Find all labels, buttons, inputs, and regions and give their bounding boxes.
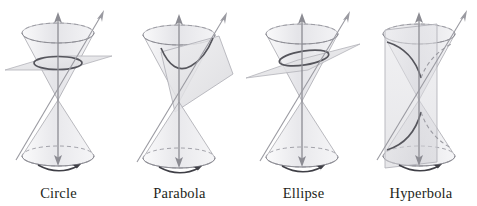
conic-sections-figure: Circle (0, 0, 477, 206)
circle-diagram (0, 0, 117, 180)
panel-label-parabola: Parabola (117, 184, 242, 202)
ellipse-diagram (242, 0, 365, 180)
conic-panel-hyperbola: Hyperbola (365, 0, 477, 206)
conic-panel-circle: Circle (0, 0, 117, 206)
panel-label-ellipse: Ellipse (242, 184, 365, 202)
conic-panel-ellipse: Ellipse (242, 0, 365, 206)
parabola-diagram (117, 0, 242, 180)
panel-label-hyperbola: Hyperbola (365, 184, 477, 202)
hyperbola-diagram (365, 0, 477, 180)
cutting-plane-vertical (385, 24, 437, 168)
conic-panel-parabola: Parabola (117, 0, 242, 206)
panel-label-circle: Circle (0, 184, 117, 202)
